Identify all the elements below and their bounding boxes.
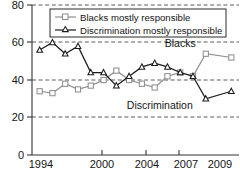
data-point-triangle [228, 88, 234, 93]
data-point-triangle [126, 73, 132, 78]
y-axis-tick-labels: 80 60 40 20 0 [12, 0, 24, 161]
chart-container: 80 60 40 20 0 1994 2000 2004 2007 2009 B… [0, 0, 240, 173]
x-axis-tick-labels: 1994 2000 2004 2007 2009 [29, 158, 232, 170]
data-point-square [229, 55, 234, 60]
data-point-square [203, 51, 208, 56]
xtick-label-1994: 1994 [29, 158, 53, 170]
legend-marker-square-icon [63, 14, 69, 20]
annotation-blacks: Blacks [165, 37, 196, 49]
data-point-triangle [37, 47, 43, 52]
legend-label-discrimination: Discrimination mostly responsible [80, 25, 222, 36]
data-point-square [114, 68, 119, 73]
xtick-label-2004: 2004 [135, 158, 159, 170]
annotation-discrimination: Discrimination [127, 99, 193, 111]
series-blacks [37, 51, 234, 96]
data-point-square [50, 91, 55, 96]
data-point-square [75, 87, 80, 92]
data-point-square [101, 77, 106, 82]
ytick-label-40: 40 [12, 74, 24, 86]
chart-legend: Blacks mostly responsible Discrimination… [50, 9, 226, 37]
ytick-label-20: 20 [12, 111, 24, 123]
ytick-label-80: 80 [12, 0, 24, 11]
series-discrimination [37, 39, 234, 101]
series-line [40, 43, 232, 99]
legend-label-blacks: Blacks mostly responsible [80, 12, 190, 23]
xtick-label-2000: 2000 [90, 158, 114, 170]
data-point-square [63, 81, 68, 86]
data-point-triangle [165, 64, 171, 69]
data-point-square [152, 85, 157, 90]
data-point-triangle [101, 69, 107, 74]
data-point-triangle [88, 69, 94, 74]
data-series-layer [37, 39, 234, 101]
ytick-label-0: 0 [18, 149, 24, 161]
ytick-label-60: 60 [12, 36, 24, 48]
data-point-triangle [75, 43, 81, 48]
data-point-triangle [139, 64, 145, 69]
xtick-label-2007: 2007 [174, 158, 198, 170]
xtick-label-2009: 2009 [208, 158, 232, 170]
data-point-triangle [50, 39, 56, 44]
series-line [40, 54, 232, 93]
data-point-square [139, 81, 144, 86]
legend-entry-discrimination[interactable]: Discrimination mostly responsible [55, 25, 222, 36]
data-point-square [165, 74, 170, 79]
data-point-square [37, 89, 42, 94]
data-point-square [88, 83, 93, 88]
line-chart: 80 60 40 20 0 1994 2000 2004 2007 2009 B… [0, 0, 240, 173]
data-point-triangle [152, 60, 158, 65]
